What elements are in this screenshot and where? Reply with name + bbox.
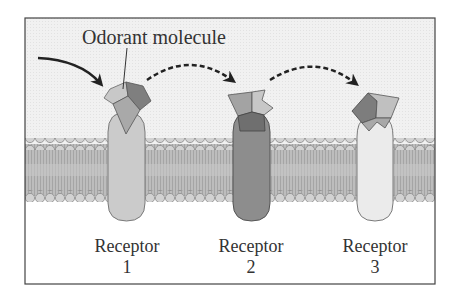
receptor-2-number: 2 bbox=[206, 258, 296, 276]
odorant-molecule-label: Odorant molecule bbox=[82, 27, 226, 47]
diagram-canvas bbox=[0, 0, 458, 302]
receptor-3 bbox=[352, 93, 399, 221]
receptor-1-number: 1 bbox=[82, 258, 172, 276]
receptor-1-label: Receptor bbox=[82, 237, 172, 255]
receptor-2 bbox=[228, 90, 273, 221]
receptor-2-label: Receptor bbox=[206, 237, 296, 255]
receptor-1 bbox=[104, 82, 151, 221]
receptor-3-label: Receptor bbox=[330, 237, 420, 255]
receptor-3-number: 3 bbox=[330, 258, 420, 276]
